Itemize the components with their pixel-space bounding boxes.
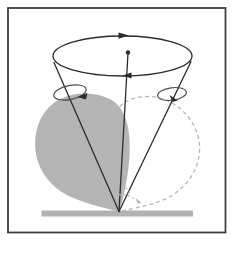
spinning-top-figure [0, 0, 240, 255]
spin-loop-right [157, 86, 187, 102]
precession-circle [53, 36, 192, 76]
top-body-dashed [119, 97, 200, 212]
precession-arrow-far [119, 32, 130, 38]
ground-bar [42, 211, 194, 217]
cone-edge-right [119, 62, 191, 212]
diagram-canvas [0, 0, 240, 255]
pivot-arrow [136, 199, 142, 204]
axis-center-dot [126, 50, 130, 54]
